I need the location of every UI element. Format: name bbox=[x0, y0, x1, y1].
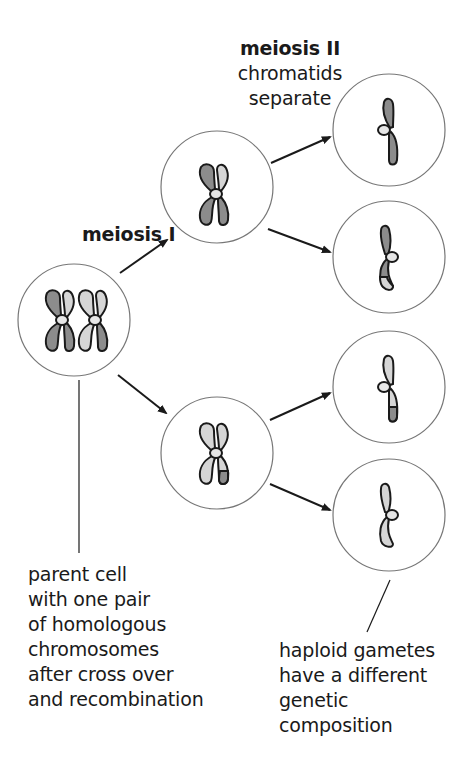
arrow-top-to-gamete2 bbox=[268, 229, 330, 252]
parent-caption-line: and recombination bbox=[28, 687, 203, 712]
gametes-caption-line: composition bbox=[279, 713, 435, 738]
parent-caption-line: chromosomes bbox=[28, 637, 203, 662]
meiosis-2-line1: chromatids bbox=[230, 61, 350, 86]
meiosis1-top-cell bbox=[161, 131, 273, 243]
parent-caption-line: with one pair bbox=[28, 587, 203, 612]
parent-caption-line: after cross over bbox=[28, 662, 203, 687]
gametes-caption-line: genetic bbox=[279, 688, 435, 713]
parent-cell bbox=[18, 264, 130, 376]
gametes-caption-line: have a different bbox=[279, 663, 435, 688]
gamete-leader-line bbox=[367, 580, 390, 632]
arrow-parent-to-bottom bbox=[118, 375, 166, 413]
arrow-bottom-to-gamete3 bbox=[270, 393, 330, 420]
meiosis-2-label: meiosis II chromatids separate bbox=[230, 36, 350, 111]
parent-caption-line: of homologous bbox=[28, 612, 203, 637]
arrow-top-to-gamete1 bbox=[271, 137, 330, 163]
parent-caption-line: parent cell bbox=[28, 562, 203, 587]
meiosis-2-line2: separate bbox=[230, 86, 350, 111]
parent-cell-caption: parent cell with one pair of homologous … bbox=[28, 562, 203, 712]
meiosis-1-label: meiosis I bbox=[82, 222, 175, 247]
meiosis-2-title: meiosis II bbox=[230, 36, 350, 61]
gametes-caption: haploid gametes have a different genetic… bbox=[279, 638, 435, 738]
arrow-bottom-to-gamete4 bbox=[270, 484, 330, 510]
gametes-caption-line: haploid gametes bbox=[279, 638, 435, 663]
